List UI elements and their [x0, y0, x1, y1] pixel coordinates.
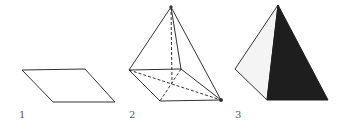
figure-label-1: 1: [19, 109, 25, 120]
figure-label-2: 2: [129, 109, 135, 120]
geometry-diagram: [0, 0, 343, 129]
pyramid-solid: [235, 5, 328, 100]
parallelogram: [22, 69, 115, 102]
pyramid-wireframe: [129, 6, 223, 102]
figure-label-3: 3: [235, 109, 241, 120]
